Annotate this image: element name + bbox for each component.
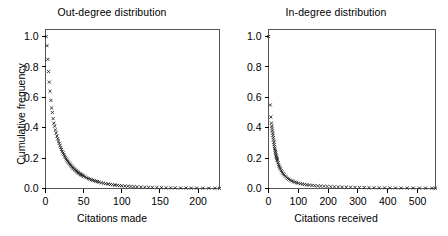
svg-text:400: 400 <box>379 195 397 207</box>
svg-text:0: 0 <box>266 195 272 207</box>
svg-text:200: 200 <box>319 195 337 207</box>
panel-out-degree: Out-degree distribution Cumulative frequ… <box>0 0 224 236</box>
svg-text:500: 500 <box>409 195 427 207</box>
plot-area-in-degree: 0.00.20.40.60.81.00100200300400500 <box>224 0 448 236</box>
svg-text:0.8: 0.8 <box>24 61 39 73</box>
svg-text:200: 200 <box>189 195 207 207</box>
plot-area-out-degree: 0.00.20.40.60.81.0050100150200 <box>0 0 224 236</box>
svg-text:1.0: 1.0 <box>247 30 262 42</box>
svg-text:0.0: 0.0 <box>24 182 39 194</box>
data-series <box>45 35 221 190</box>
svg-text:0.2: 0.2 <box>247 152 262 164</box>
svg-text:0.2: 0.2 <box>24 152 39 164</box>
svg-text:0.4: 0.4 <box>24 121 39 133</box>
svg-text:0.6: 0.6 <box>247 91 262 103</box>
svg-text:0.4: 0.4 <box>247 121 262 133</box>
svg-text:50: 50 <box>78 195 90 207</box>
svg-text:100: 100 <box>290 195 308 207</box>
svg-text:1.0: 1.0 <box>24 30 39 42</box>
svg-text:0.8: 0.8 <box>247 61 262 73</box>
svg-text:300: 300 <box>349 195 367 207</box>
svg-text:0.0: 0.0 <box>247 182 262 194</box>
svg-text:150: 150 <box>151 195 169 207</box>
figure-container: Out-degree distribution Cumulative frequ… <box>0 0 448 236</box>
svg-text:0: 0 <box>43 195 49 207</box>
svg-text:0.6: 0.6 <box>24 91 39 103</box>
panel-in-degree: In-degree distribution Citations receive… <box>224 0 448 236</box>
data-series <box>267 35 437 190</box>
svg-text:100: 100 <box>113 195 131 207</box>
